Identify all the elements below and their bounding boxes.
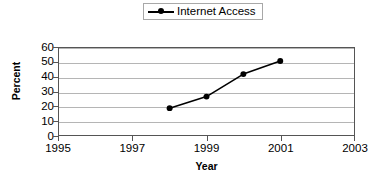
y-axis-tick-label: 20 (24, 100, 54, 113)
data-point-marker (167, 105, 173, 111)
x-axis-tick-mark (58, 136, 59, 141)
internet-access-line-chart: Internet Access Percent 0102030405060 19… (0, 0, 383, 184)
y-axis-tick-label: 60 (24, 41, 54, 54)
x-axis-tick-mark (354, 136, 355, 141)
chart-legend: Internet Access (143, 3, 263, 20)
y-axis-tick-label: 40 (24, 70, 54, 83)
legend-item-label: Internet Access (177, 5, 256, 18)
data-point-marker (204, 94, 210, 100)
data-series-internet-access (59, 48, 354, 135)
series-line (170, 61, 281, 108)
x-axis-tick-mark (281, 136, 282, 141)
y-axis-tick-labels: 0102030405060 (24, 40, 54, 143)
x-axis-tick-mark (132, 136, 133, 141)
plot-area (58, 47, 355, 136)
x-axis-title: Year (58, 160, 355, 172)
y-axis-tick-label: 0 (24, 130, 54, 143)
data-point-marker (240, 71, 246, 77)
y-axis-title: Percent (10, 49, 22, 113)
data-point-marker (277, 58, 283, 64)
y-axis-tick-label: 30 (24, 85, 54, 98)
x-axis-tick-label: 2001 (258, 142, 304, 155)
x-axis-tick-labels: 19951997199920012003 (0, 142, 383, 157)
x-axis-tick-mark (207, 136, 208, 141)
line-marker-icon (148, 6, 174, 17)
y-axis-tick-label: 50 (24, 55, 54, 68)
x-axis-tick-label: 1997 (109, 142, 155, 155)
x-axis-tick-marks (58, 136, 355, 141)
y-axis-tick-label: 10 (24, 115, 54, 128)
x-axis-tick-label: 2003 (332, 142, 378, 155)
x-axis-tick-label: 1999 (184, 142, 230, 155)
x-axis-tick-label: 1995 (35, 142, 81, 155)
